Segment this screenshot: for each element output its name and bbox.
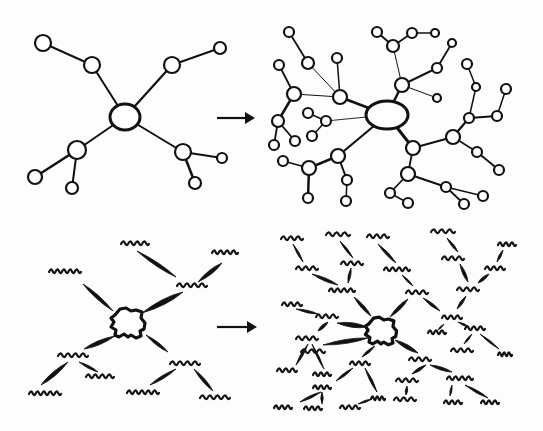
brush-stroke bbox=[460, 264, 468, 282]
squiggle-label bbox=[350, 361, 370, 365]
network-node bbox=[274, 60, 284, 70]
squiggle-label bbox=[442, 256, 464, 260]
squiggle-label bbox=[367, 234, 389, 238]
hub-node bbox=[110, 104, 140, 130]
network-node bbox=[407, 28, 417, 38]
central-blob bbox=[111, 308, 145, 338]
brush-stroke bbox=[300, 392, 321, 402]
brush-stroke bbox=[358, 399, 372, 404]
brush-stroke bbox=[318, 322, 328, 331]
brush-stroke bbox=[438, 324, 444, 330]
squiggle-label bbox=[121, 241, 149, 245]
brush-stroke bbox=[390, 299, 408, 317]
squiggle-label bbox=[442, 315, 462, 319]
brush-stroke bbox=[340, 241, 353, 258]
network-node bbox=[478, 191, 488, 201]
transformation-arrows bbox=[217, 112, 257, 333]
brush-stroke bbox=[478, 274, 489, 283]
network-node bbox=[164, 57, 180, 73]
brush-stroke bbox=[450, 385, 452, 396]
brush-stroke bbox=[447, 238, 458, 252]
squiggle-label bbox=[340, 405, 360, 409]
large-node-network bbox=[269, 27, 511, 209]
small-abstract-network bbox=[29, 241, 238, 399]
squiggle-label bbox=[127, 390, 159, 394]
brush-stroke bbox=[150, 369, 176, 385]
network-node bbox=[284, 27, 294, 37]
brush-stroke bbox=[465, 385, 488, 398]
squiggle-label bbox=[341, 261, 363, 265]
network-node bbox=[66, 182, 78, 194]
brush-stroke bbox=[323, 338, 368, 345]
large-abstract-network bbox=[274, 229, 516, 410]
network-node bbox=[441, 182, 451, 192]
network-node bbox=[341, 196, 351, 206]
small-node-network bbox=[28, 35, 227, 194]
brush-stroke bbox=[41, 362, 68, 385]
squiggle-label bbox=[444, 400, 462, 404]
network-node bbox=[432, 63, 442, 73]
brush-stroke bbox=[430, 365, 452, 372]
squiggle-label bbox=[326, 232, 350, 236]
brush-stroke bbox=[348, 268, 351, 283]
squiggle-label bbox=[212, 250, 238, 254]
squiggle-label bbox=[394, 397, 416, 401]
network-node bbox=[217, 153, 227, 163]
brush-stroke bbox=[405, 386, 408, 395]
squiggle-label bbox=[457, 287, 479, 291]
network-node bbox=[406, 141, 420, 155]
squiggle-label bbox=[498, 242, 516, 246]
network-node bbox=[387, 40, 399, 52]
brush-stroke bbox=[480, 334, 499, 349]
squiggle-label bbox=[431, 229, 455, 233]
network-node bbox=[401, 167, 415, 181]
squiggle-label bbox=[313, 385, 331, 389]
squiggle-label bbox=[396, 378, 418, 382]
brush-stroke bbox=[365, 368, 377, 392]
squiggle-label bbox=[177, 283, 207, 287]
squiggle-label bbox=[282, 302, 302, 306]
network-node bbox=[68, 141, 86, 159]
central-blob bbox=[365, 317, 396, 345]
squiggle-label bbox=[304, 406, 322, 410]
network-node bbox=[431, 29, 439, 37]
brush-stroke bbox=[312, 274, 338, 285]
squiggle-label bbox=[465, 326, 485, 330]
network-node bbox=[492, 111, 502, 121]
squiggle-label bbox=[170, 361, 200, 365]
network-node bbox=[321, 116, 331, 126]
squiggle-label bbox=[49, 269, 81, 273]
brush-stroke bbox=[321, 392, 324, 404]
network-node bbox=[342, 175, 352, 185]
network-node bbox=[385, 188, 395, 198]
network-node bbox=[269, 140, 279, 150]
squiggle-label bbox=[274, 405, 292, 409]
brush-stroke bbox=[84, 336, 115, 349]
arrow-right-icon bbox=[245, 112, 255, 124]
squiggle-label bbox=[371, 396, 385, 400]
network-node bbox=[462, 59, 472, 69]
brush-stroke bbox=[137, 251, 176, 277]
network-node bbox=[333, 90, 347, 104]
brush-stroke bbox=[457, 296, 466, 309]
network-node bbox=[303, 108, 313, 118]
network-node bbox=[175, 144, 191, 160]
arrow-right-icon bbox=[247, 321, 257, 333]
brush-stroke bbox=[198, 263, 222, 282]
network-node bbox=[302, 161, 316, 175]
network-node bbox=[459, 199, 469, 209]
network-growth-illustration bbox=[0, 0, 543, 431]
squiggle-label bbox=[329, 288, 355, 292]
squiggle-label bbox=[406, 290, 428, 294]
squiggle-label bbox=[296, 266, 318, 270]
squiggle-label bbox=[200, 395, 230, 399]
squiggle-label bbox=[384, 267, 410, 271]
squiggle-label bbox=[313, 372, 331, 376]
diagram-canvas bbox=[0, 0, 543, 431]
network-node bbox=[446, 130, 460, 144]
brush-stroke bbox=[337, 322, 367, 327]
network-node bbox=[214, 42, 226, 54]
network-node bbox=[307, 131, 317, 141]
brush-stroke bbox=[194, 369, 213, 391]
network-node bbox=[287, 87, 301, 101]
